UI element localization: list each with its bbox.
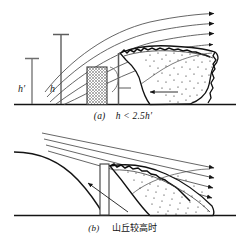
label-h: h [50, 83, 55, 94]
dimension-h [53, 34, 69, 104]
caption-a-index: (a) [94, 111, 106, 121]
figure-container: h′ h (a) h < 2.5h′ (b) 山丘较高时 [0, 0, 246, 241]
caption-panel-b: (b) 山丘较高时 [0, 221, 246, 234]
panel-b-building [100, 164, 109, 215]
panel-a-building [87, 67, 107, 105]
caption-b-index: (b) [88, 223, 99, 233]
caption-panel-a: (a) h < 2.5h′ [0, 111, 246, 121]
caption-b-text: 山丘较高时 [112, 223, 158, 233]
panel-b-group [14, 133, 236, 216]
panel-b-separation-zone [110, 165, 214, 216]
caption-a-text: h < 2.5h′ [116, 111, 152, 121]
panel-b-hill-profile [14, 152, 104, 216]
panel-a-vortex-curl [110, 67, 118, 92]
panel-a-group [14, 14, 236, 105]
label-h-prime: h′ [18, 83, 25, 94]
dimension-h-prime [25, 58, 39, 104]
